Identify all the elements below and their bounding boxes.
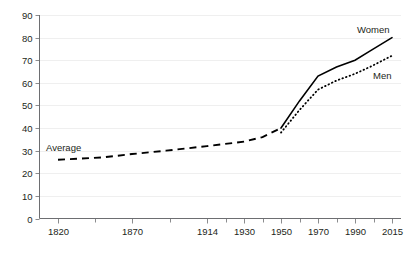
- gridlines: [40, 16, 402, 197]
- x-axis-tick-label: 1990: [345, 226, 366, 237]
- x-axis-tick-label: 1914: [197, 226, 218, 237]
- x-axis-tick-labels: 18201870191419301950197019902015: [48, 226, 403, 237]
- x-axis-tick-label: 1970: [308, 226, 329, 237]
- series-label-average: Average: [46, 142, 81, 153]
- x-axis-tick-label: 1870: [122, 226, 143, 237]
- line-chart: 0102030405060708090 18201870191419301950…: [0, 0, 416, 258]
- series-label-women: Women: [357, 24, 390, 35]
- chart-container: 0102030405060708090 18201870191419301950…: [0, 0, 416, 258]
- y-axis-tick-label: 0: [27, 214, 32, 225]
- series-line-average: [58, 128, 281, 160]
- y-axis-tick-label: 10: [22, 191, 33, 202]
- y-axis-tick-label: 80: [22, 33, 33, 44]
- y-axis-tick-label: 20: [22, 168, 33, 179]
- y-axis-tick-label: 30: [22, 146, 33, 157]
- series-line-women: [281, 38, 392, 128]
- y-axis-tick-label: 60: [22, 78, 33, 89]
- x-axis-tick-label: 1950: [271, 226, 292, 237]
- y-axis-ticks: [36, 16, 40, 220]
- x-axis-tick-label: 2015: [382, 226, 403, 237]
- y-axis-tick-label: 70: [22, 55, 33, 66]
- y-axis-tick-label: 50: [22, 100, 33, 111]
- x-axis-tick-label: 1930: [234, 226, 255, 237]
- x-axis-tick-label: 1820: [48, 226, 69, 237]
- y-axis-tick-label: 40: [22, 123, 33, 134]
- y-axis-tick-label: 90: [22, 10, 33, 21]
- series-label-men: Men: [373, 70, 391, 81]
- y-axis-tick-labels: 0102030405060708090: [22, 10, 33, 225]
- x-axis-ticks: [59, 219, 393, 224]
